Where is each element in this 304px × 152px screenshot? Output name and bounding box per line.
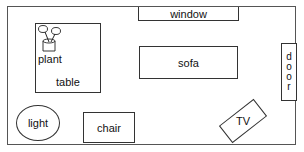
window-label: window bbox=[170, 8, 207, 20]
plant-label: plant bbox=[38, 54, 62, 65]
light: light bbox=[16, 105, 60, 141]
light-label: light bbox=[28, 117, 48, 129]
door-label: d o o r bbox=[286, 52, 292, 92]
chair-label: chair bbox=[97, 122, 121, 134]
sofa-label: sofa bbox=[178, 57, 199, 69]
door: d o o r bbox=[281, 43, 297, 101]
table-label: table bbox=[56, 77, 80, 88]
plant-icon bbox=[36, 24, 66, 56]
window: window bbox=[138, 7, 239, 21]
tv-label: TV bbox=[236, 115, 250, 127]
sofa: sofa bbox=[139, 46, 238, 79]
chair: chair bbox=[83, 112, 135, 143]
